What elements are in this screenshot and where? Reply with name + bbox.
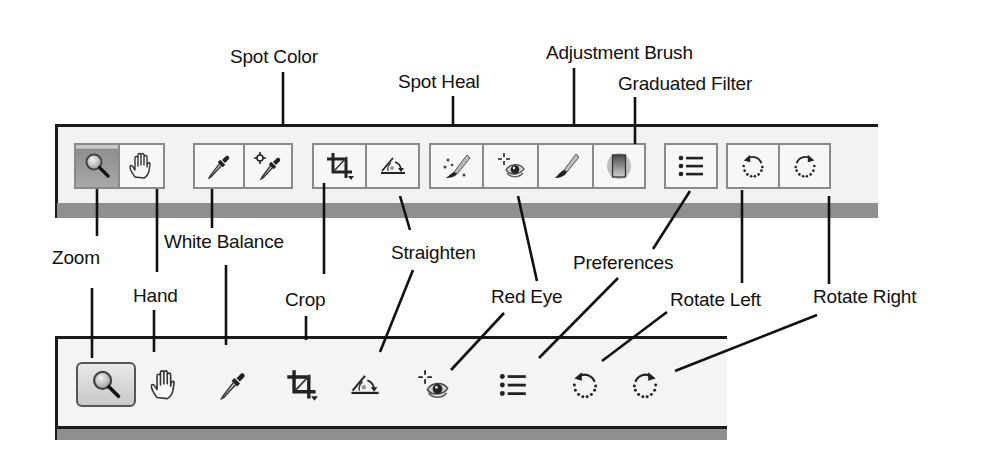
red-eye-tool-button[interactable] — [482, 143, 539, 189]
graduated-filter-tool-button[interactable] — [592, 143, 646, 189]
toolbar-full-bottom-band — [57, 203, 878, 218]
list-icon — [497, 369, 529, 401]
label-preferences: Preferences — [573, 253, 673, 272]
eyedropper-icon — [216, 368, 250, 402]
toolbar-compact-left-border — [55, 336, 58, 440]
crop-tool-button[interactable] — [312, 143, 367, 189]
zoom-tool-button-compact[interactable] — [76, 362, 136, 407]
label-graduated-filter: Graduated Filter — [618, 74, 752, 93]
hand-tool-button[interactable] — [118, 143, 165, 189]
label-white-balance: White Balance — [164, 232, 284, 251]
rotate-left-button[interactable] — [726, 143, 780, 189]
straighten-icon — [348, 368, 382, 402]
toolbar-compact-top-border — [55, 336, 727, 339]
rotate-left-icon — [569, 369, 601, 401]
graduated-filter-icon — [604, 151, 634, 181]
toolbar-full-top-border — [55, 124, 878, 127]
label-spot-color: Spot Color — [230, 47, 318, 66]
list-icon — [676, 151, 706, 181]
heal-brush-icon — [442, 151, 472, 181]
hand-icon — [148, 368, 182, 402]
rotate-right-icon — [629, 369, 661, 401]
red-eye-icon — [416, 368, 450, 402]
preferences-button[interactable] — [664, 143, 718, 189]
rotate-left-icon — [739, 152, 767, 180]
rotate-right-icon — [791, 152, 819, 180]
straighten-tool-button[interactable] — [365, 143, 420, 189]
crop-tool-button-compact[interactable] — [278, 362, 326, 407]
red-eye-icon — [496, 151, 526, 181]
label-adjustment-brush: Adjustment Brush — [546, 43, 693, 62]
hand-tool-button-compact[interactable] — [142, 362, 188, 407]
eyedropper-icon — [204, 151, 234, 181]
magnifier-icon — [89, 368, 123, 402]
straighten-tool-button-compact[interactable] — [342, 362, 388, 407]
crop-icon — [325, 151, 355, 181]
eyedropper-target-icon — [253, 151, 283, 181]
label-crop: Crop — [285, 290, 325, 309]
hand-icon — [127, 151, 157, 181]
label-rotate-left: Rotate Left — [670, 290, 761, 309]
spot-heal-tool-button[interactable] — [429, 143, 484, 189]
rotate-right-button-compact[interactable] — [623, 362, 667, 407]
label-straighten: Straighten — [391, 243, 476, 262]
rotate-right-button[interactable] — [778, 143, 831, 189]
label-zoom: Zoom — [52, 248, 100, 267]
brush-icon — [551, 151, 581, 181]
label-hand: Hand — [133, 286, 178, 305]
zoom-tool-button[interactable] — [74, 143, 120, 189]
preferences-button-compact[interactable] — [490, 362, 536, 407]
label-red-eye: Red Eye — [491, 287, 562, 306]
white-balance-tool-button[interactable] — [193, 143, 245, 189]
label-spot-heal: Spot Heal — [398, 72, 480, 91]
red-eye-tool-button-compact[interactable] — [408, 362, 458, 407]
straighten-icon — [378, 151, 408, 181]
toolbar-compact-bottom-band — [57, 429, 727, 440]
crop-icon — [285, 368, 319, 402]
rotate-left-button-compact[interactable] — [563, 362, 607, 407]
white-balance-tool-button-compact[interactable] — [210, 362, 256, 407]
label-rotate-right: Rotate Right — [813, 287, 916, 306]
adjustment-brush-tool-button[interactable] — [537, 143, 594, 189]
magnifier-icon — [82, 151, 112, 181]
spot-color-tool-button[interactable] — [243, 143, 293, 189]
